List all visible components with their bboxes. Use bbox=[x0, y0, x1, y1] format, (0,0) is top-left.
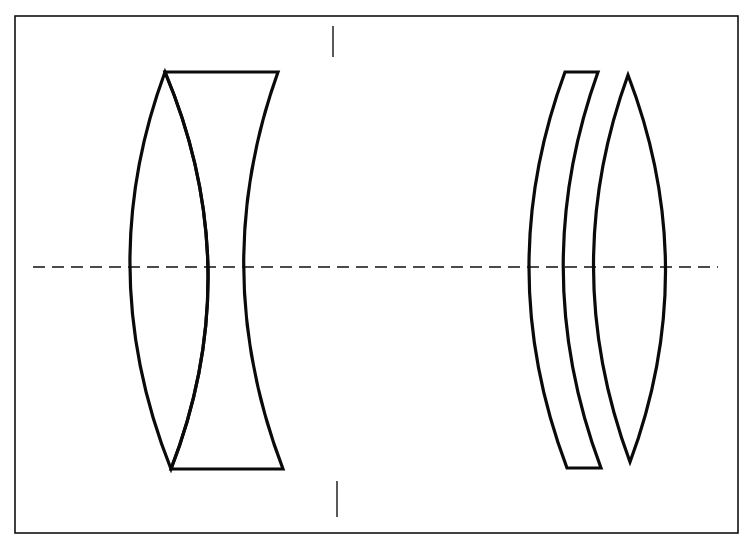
lens-diagram bbox=[0, 0, 749, 548]
diagram-canvas bbox=[0, 0, 749, 548]
rear-biconvex-element bbox=[593, 75, 665, 462]
lens-elements bbox=[130, 72, 666, 469]
rear-meniscus-element bbox=[529, 72, 601, 468]
front-biconcave-element bbox=[165, 72, 283, 469]
front-biconvex-element bbox=[130, 72, 208, 469]
diagram-frame bbox=[15, 16, 738, 533]
